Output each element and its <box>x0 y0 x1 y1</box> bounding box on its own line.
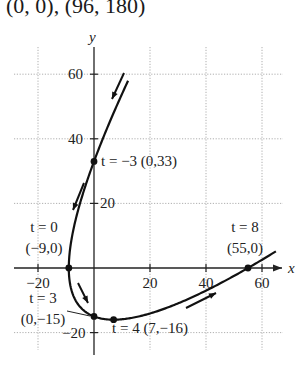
y-tick-label: 40 <box>68 131 83 147</box>
point-label: t = 4 (7,−16) <box>112 320 188 337</box>
point-label: (0,−15) <box>21 311 66 328</box>
point-label: (55,0) <box>227 240 263 257</box>
x-tick-label: 60 <box>255 275 270 291</box>
point-marker <box>91 158 98 165</box>
labeled-points: t = −3 (0,33)t = 0(−9,0)t = 3(0,−15)t = … <box>21 153 263 337</box>
point-marker <box>91 313 98 320</box>
y-tick-label: −20 <box>62 325 85 341</box>
x-tick-label: 20 <box>143 275 158 291</box>
y-tick-label: 60 <box>68 66 83 82</box>
x-tick-label: −20 <box>26 275 49 291</box>
x-axis-label: x <box>287 260 295 276</box>
point-label: (−9,0) <box>25 240 62 257</box>
x-axis-arrow-icon <box>273 265 282 272</box>
point-label: t = −3 (0,33) <box>101 153 177 170</box>
point-label: t = 0 <box>30 219 58 235</box>
y-tick-label: 20 <box>100 195 115 211</box>
y-axis-label: y <box>87 29 96 45</box>
point-marker <box>65 265 72 272</box>
point-label: t = 8 <box>231 219 259 235</box>
point-label: t = 3 <box>29 290 57 306</box>
point-marker <box>245 265 252 272</box>
axes: xy <box>14 29 295 355</box>
parametric-curve-chart: xy 604020−20−20204060 t = −3 (0,33)t = 0… <box>0 0 302 376</box>
